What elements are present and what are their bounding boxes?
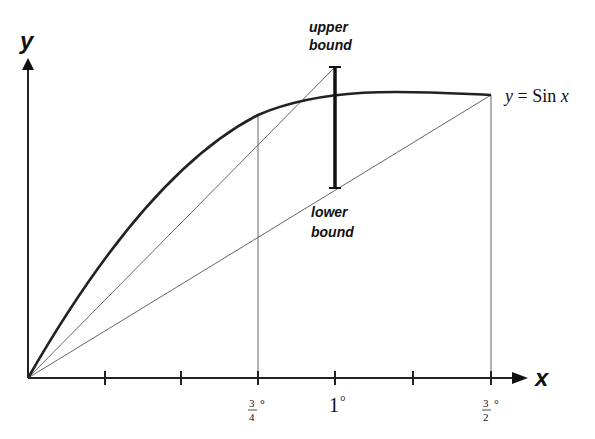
svg-text:3: 3 xyxy=(249,397,255,409)
tick-label-three-quarter: 3 4 ° xyxy=(248,397,265,423)
svg-text:4: 4 xyxy=(249,411,255,423)
upper-bound-label-line2: bound xyxy=(309,37,352,53)
svg-text:°: ° xyxy=(494,397,499,411)
svg-text:1: 1 xyxy=(329,394,339,416)
x-axis-arrow-icon xyxy=(512,372,528,384)
y-axis-label: y xyxy=(19,27,35,54)
svg-text:°: ° xyxy=(340,394,346,409)
upper-bound-chord xyxy=(28,67,335,378)
lower-bound-label-line1: lower xyxy=(311,204,349,220)
svg-text:2: 2 xyxy=(483,411,489,423)
upper-bound-label-line1: upper xyxy=(309,19,349,35)
x-axis-label: x xyxy=(533,364,550,391)
tick-label-three-half: 3 2 ° xyxy=(482,397,499,423)
lower-bound-label-line2: bound xyxy=(311,224,354,240)
lower-bound-chord xyxy=(28,95,491,378)
svg-text:°: ° xyxy=(260,397,265,411)
svg-text:3: 3 xyxy=(483,397,489,409)
sin-bounds-diagram: y x y = Sin x upper bound lower bound 3 … xyxy=(0,0,595,439)
y-axis-arrow-icon xyxy=(22,58,34,70)
tick-label-one: 1 ° xyxy=(329,394,346,416)
curve-label: y = Sin x xyxy=(503,86,569,106)
